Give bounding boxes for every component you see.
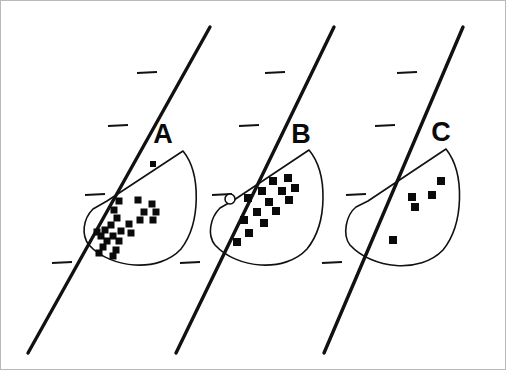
data-points-b (225, 174, 299, 246)
tick-mark-c-2 (375, 125, 395, 126)
tick-mark-b-2 (239, 125, 259, 126)
data-point-square (110, 253, 117, 260)
data-point-square (116, 198, 123, 205)
three-panel-scatter-figure: ABC (1, 1, 506, 370)
data-point-square (258, 187, 266, 195)
data-point-square (285, 196, 293, 204)
data-point-square (137, 217, 144, 224)
data-point-square (244, 194, 252, 202)
data-point-square (150, 217, 157, 224)
tick-mark-c-1 (397, 72, 417, 73)
panel-c: C (322, 27, 463, 353)
data-point-square (111, 207, 118, 214)
tick-mark-a-4 (52, 262, 72, 263)
data-point-square (245, 229, 253, 237)
data-point-square (428, 191, 436, 199)
figure-container: ABC (0, 0, 506, 370)
data-point-square (291, 184, 299, 192)
data-point-square (96, 250, 103, 257)
tick-mark-c-4 (322, 262, 342, 263)
tick-mark-c-3 (346, 194, 366, 195)
data-point-square (265, 198, 273, 206)
data-point-square (100, 244, 107, 251)
data-point-square (278, 187, 286, 195)
tick-mark-a-2 (108, 125, 128, 126)
data-point-square (272, 207, 280, 215)
data-point-square (240, 216, 248, 224)
data-points-c (389, 177, 445, 244)
panel-b: B (176, 27, 334, 353)
data-point-square (114, 215, 121, 222)
axis-line-b (176, 27, 334, 353)
data-point-square (284, 174, 292, 182)
tick-mark-b-1 (265, 72, 285, 73)
data-point-square (437, 177, 445, 185)
tick-mark-a-3 (85, 194, 105, 195)
data-point-square (260, 219, 268, 227)
data-point-square (153, 209, 160, 216)
data-point-square (110, 233, 117, 240)
data-point-square (150, 161, 156, 167)
data-point-square (411, 203, 419, 211)
data-point-square (233, 238, 241, 246)
data-point-square (108, 222, 115, 229)
data-point-square (135, 197, 142, 204)
panel-label-b: B (291, 119, 311, 149)
data-point-square (253, 208, 261, 216)
data-point-square (94, 229, 101, 236)
data-point-square (141, 209, 148, 216)
data-point-square (104, 238, 111, 245)
panel-a: A (28, 27, 210, 353)
data-point-square (269, 177, 277, 185)
data-point-square (149, 201, 156, 208)
panel-label-a: A (153, 119, 173, 149)
tick-mark-a-1 (137, 72, 157, 73)
data-point-square (102, 227, 109, 234)
data-point-square (128, 230, 135, 237)
axis-line-a (28, 27, 210, 353)
data-point-square (116, 238, 123, 245)
panels-layer: ABC (28, 27, 463, 353)
data-point-square (408, 193, 416, 201)
data-point-open-circle (225, 194, 235, 204)
tick-mark-b-4 (180, 262, 200, 263)
panel-label-c: C (431, 117, 451, 147)
data-point-square (126, 221, 133, 228)
data-point-square (389, 236, 397, 244)
data-point-square (118, 228, 125, 235)
data-point-square (113, 247, 120, 254)
axis-line-c (324, 27, 463, 353)
